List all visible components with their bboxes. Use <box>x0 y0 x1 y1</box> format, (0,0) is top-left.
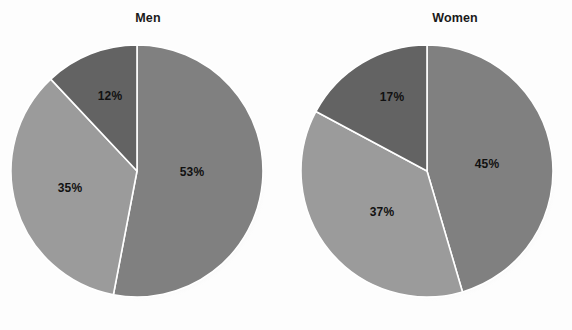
pie-label-women-45: 45% <box>475 157 499 171</box>
chart-title-men: Men <box>135 11 160 25</box>
pie-label-men-53: 53% <box>180 165 204 179</box>
pie-label-women-37: 37% <box>370 205 394 219</box>
pie-label-men-12: 12% <box>98 89 122 103</box>
chart-title-women: Women <box>432 11 477 25</box>
pie-label-women-17: 17% <box>380 90 404 104</box>
pie-chart-women <box>301 45 558 302</box>
pie-slices-women <box>301 45 553 297</box>
pie-slices-men <box>11 45 263 297</box>
pie-chart-figure: Men Women 53% 35% 12% 45% 37% 17% <box>0 0 572 330</box>
pie-chart-men <box>11 45 268 302</box>
pie-label-men-35: 35% <box>58 181 82 195</box>
